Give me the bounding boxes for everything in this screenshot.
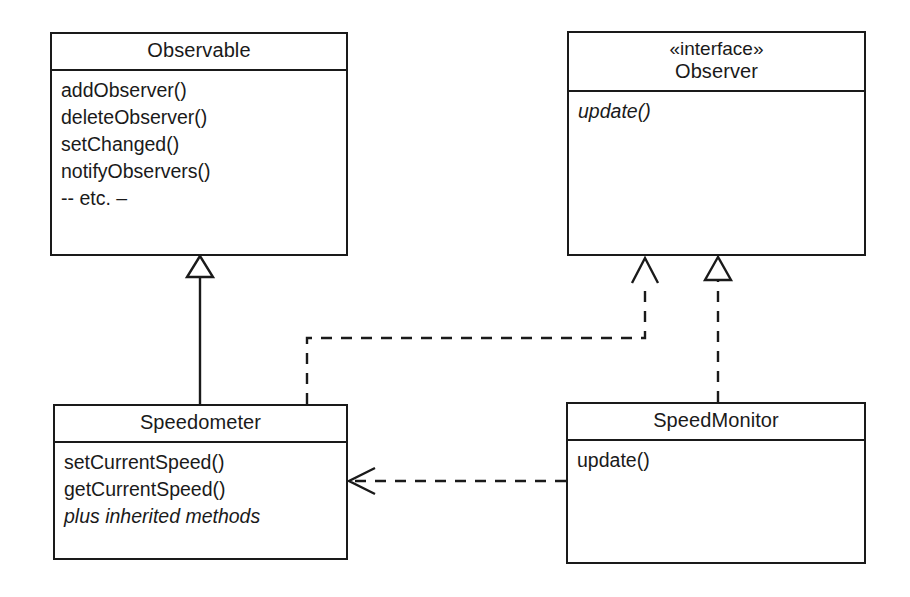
realization-speedometer-observer: [307, 258, 658, 404]
class-name-observer: Observer: [675, 60, 758, 82]
class-member: notifyObservers(): [61, 158, 346, 185]
class-member: getCurrentSpeed(): [64, 476, 346, 503]
class-member: addObserver(): [61, 77, 346, 104]
class-stereotype-observer: «interface»: [573, 38, 860, 60]
class-header-observable: Observable: [52, 34, 346, 71]
open-v-arrow-icon: [349, 468, 375, 494]
class-name-observable: Observable: [147, 39, 250, 61]
class-header-observer: «interface» Observer: [569, 33, 864, 92]
dependency-speedmonitor-speedometer: [349, 468, 566, 494]
class-member: -- etc. –: [61, 185, 346, 212]
class-member: setChanged(): [61, 131, 346, 158]
class-name-speedometer: Speedometer: [140, 411, 261, 433]
open-v-arrow-icon: [632, 258, 658, 283]
class-members-speedometer: setCurrentSpeed() getCurrentSpeed() plus…: [55, 443, 346, 558]
class-member: update(): [578, 98, 864, 125]
realization-speedmonitor-observer: [705, 257, 731, 402]
class-member: setCurrentSpeed(): [64, 449, 346, 476]
class-box-observer[interactable]: «interface» Observer update(): [567, 31, 866, 256]
class-member: deleteObserver(): [61, 104, 346, 131]
class-members-observer: update(): [569, 92, 864, 254]
class-member: plus inherited methods: [64, 503, 346, 530]
uml-class-diagram: Observable addObserver() deleteObserver(…: [0, 0, 910, 597]
realization-dashed-line: [307, 282, 645, 404]
class-members-observable: addObserver() deleteObserver() setChange…: [52, 71, 346, 254]
class-box-speedometer[interactable]: Speedometer setCurrentSpeed() getCurrent…: [53, 404, 348, 560]
class-members-speedmonitor: update(): [568, 441, 864, 562]
hollow-closed-triangle-icon: [705, 257, 731, 280]
generalization-speedometer-observable: [187, 256, 213, 404]
class-box-observable[interactable]: Observable addObserver() deleteObserver(…: [50, 32, 348, 256]
class-header-speedometer: Speedometer: [55, 406, 346, 443]
class-box-speedmonitor[interactable]: SpeedMonitor update(): [566, 402, 866, 564]
class-name-speedmonitor: SpeedMonitor: [653, 409, 779, 431]
class-header-speedmonitor: SpeedMonitor: [568, 404, 864, 441]
hollow-closed-triangle-icon: [187, 256, 213, 277]
class-member: update(): [577, 447, 864, 474]
